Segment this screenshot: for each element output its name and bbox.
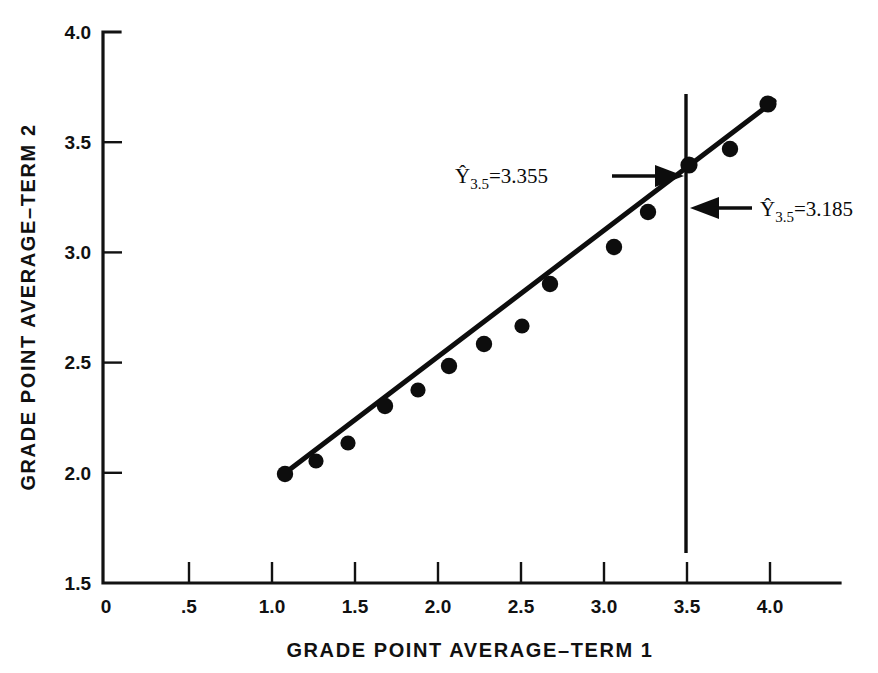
axes-group	[103, 32, 840, 583]
annotation-lower-text: Ŷ3.5=3.185	[760, 197, 853, 225]
x-tick-label-1.5: 1.5	[342, 596, 369, 617]
annotation-lower-subscript: 3.5	[775, 209, 794, 225]
y-tick-label-3.0: 3.0	[65, 242, 91, 263]
x-tick-label-0: 0	[101, 596, 112, 617]
annotation-upper-value: =3.355	[489, 164, 548, 188]
data-point	[759, 95, 776, 112]
y-tick-marks	[103, 142, 122, 473]
axis-frame-path	[103, 32, 840, 583]
y-tick-label-4.0: 4.0	[65, 22, 91, 43]
y-tick-label-2.0: 2.0	[65, 463, 91, 484]
y-axis-title: GRADE POINT AVERAGE–TERM 2	[17, 123, 39, 490]
x-tick-label-2.5: 2.5	[508, 596, 535, 617]
data-point	[441, 358, 457, 374]
data-point	[640, 204, 656, 220]
data-point	[542, 276, 558, 292]
annotation-upper-subscript: 3.5	[470, 176, 489, 192]
chart-figure: 4.0 3.5 3.0 2.5 2.0 1.5 0 .5 1.0 1.5 2.0…	[0, 0, 878, 673]
data-point	[377, 398, 393, 414]
x-tick-labels: 0 .5 1.0 1.5 2.0 2.5 3.0 3.5 4.0	[101, 596, 784, 617]
y-tick-label-2.5: 2.5	[65, 352, 92, 373]
y-tick-label-1.5: 1.5	[65, 573, 92, 594]
x-tick-label-4.0: 4.0	[757, 596, 783, 617]
data-point	[722, 141, 738, 157]
data-point	[308, 453, 323, 468]
data-point	[476, 336, 492, 352]
data-point	[340, 435, 355, 450]
x-tick-label-1.0: 1.0	[259, 596, 285, 617]
x-tick-label-2.0: 2.0	[425, 596, 451, 617]
annotation-upper-group: Ŷ3.5=3.355	[455, 164, 684, 192]
y-tick-label-3.5: 3.5	[65, 132, 92, 153]
scatter-plot-canvas: 4.0 3.5 3.0 2.5 2.0 1.5 0 .5 1.0 1.5 2.0…	[0, 0, 878, 673]
annotation-upper-yhat: Ŷ	[455, 164, 470, 188]
x-tick-label-3.0: 3.0	[591, 596, 617, 617]
x-tick-label-0.5: .5	[181, 596, 197, 617]
x-axis-title: GRADE POINT AVERAGE–TERM 1	[286, 639, 653, 661]
annotation-upper-text: Ŷ3.5=3.355	[455, 164, 548, 192]
y-tick-labels: 4.0 3.5 3.0 2.5 2.0 1.5	[65, 22, 92, 594]
data-point	[606, 239, 622, 255]
annotation-lower-group: Ŷ3.5=3.185	[690, 197, 853, 225]
x-tick-label-3.5: 3.5	[674, 596, 701, 617]
data-point	[277, 466, 293, 482]
annotation-lower-value: =3.185	[794, 197, 853, 221]
data-point	[680, 156, 697, 173]
annotation-lower-yhat: Ŷ	[760, 197, 775, 221]
annotation-upper-arrow-head	[655, 165, 684, 187]
data-point	[514, 318, 529, 333]
x-tick-marks	[189, 562, 770, 583]
data-point	[410, 382, 425, 397]
regression-line	[289, 101, 774, 470]
